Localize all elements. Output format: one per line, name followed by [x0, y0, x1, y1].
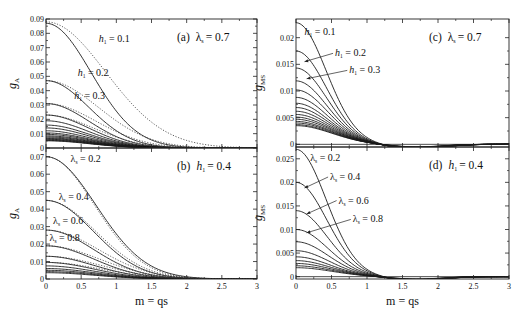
- y-tick-label: 0.02: [280, 34, 294, 43]
- y-tick-label: 0.01: [280, 226, 294, 235]
- x-tick-label: 0: [44, 282, 48, 291]
- x-tick-label: 2.5: [217, 282, 227, 291]
- series-annotation: h1 = 0.1: [99, 33, 130, 45]
- panel-b: 00.511.522.5300.010.020.030.040.050.060.…: [5, 148, 259, 308]
- arrowhead-icon: [307, 230, 311, 233]
- panel-d: 00.511.522.5300.0050.010.0150.020.025gMS…: [251, 147, 511, 308]
- x-tick-label: 2: [436, 282, 440, 291]
- annotation-arrow: [305, 53, 334, 61]
- y-tick-label: 0: [40, 144, 44, 153]
- series-annotation: λs = 0.2: [71, 153, 101, 165]
- y-axis-title: gA: [5, 78, 21, 89]
- y-tick-label: 0.02: [280, 178, 294, 187]
- panel-title: (b)h1= 0.4: [177, 160, 231, 173]
- series-annotation: λs = 0.4: [330, 171, 360, 183]
- series-line-dotted: [46, 115, 257, 148]
- series-annotation: h1 = 0.2: [335, 47, 366, 59]
- arrowhead-icon: [305, 59, 309, 62]
- series-annotation: h1 = 0.1: [305, 26, 336, 38]
- x-tick-label: 3: [507, 282, 511, 291]
- series-annotation: λs = 0.6: [53, 215, 83, 227]
- y-tick-label: 0.06: [30, 58, 44, 67]
- y-tick-label: 0.02: [30, 240, 44, 249]
- y-tick-label: 0: [290, 140, 294, 149]
- panel-title: (d)h1= 0.4: [429, 159, 483, 172]
- x-tick-label: 2: [185, 282, 189, 291]
- annotation-arrow: [305, 177, 329, 188]
- y-axis-title: gMS: [251, 205, 267, 221]
- y-tick-label: 0: [40, 275, 44, 284]
- series-line: [46, 115, 257, 148]
- series-annotation: h1 = 0.3: [74, 90, 105, 102]
- series-line: [296, 68, 509, 149]
- x-tick-label: 0.5: [76, 282, 86, 291]
- series-line: [46, 121, 257, 148]
- x-tick-label: 0.5: [327, 282, 337, 291]
- y-tick-label: 0.02: [30, 115, 44, 124]
- y-tick-label: 0.005: [276, 114, 294, 123]
- x-tick-label: 1: [114, 282, 118, 291]
- y-tick-label: 0.03: [30, 101, 44, 110]
- series-annotation: λs = 0.4: [59, 191, 89, 203]
- y-axis-title: gA: [5, 208, 21, 219]
- x-tick-label: 0: [294, 282, 298, 291]
- y-tick-label: 0.04: [30, 87, 44, 96]
- arrowhead-icon: [307, 76, 311, 79]
- y-tick-label: 0.09: [30, 15, 44, 24]
- figure: 00.010.020.030.040.050.060.070.080.09gA(…: [0, 0, 522, 314]
- x-tick-label: 3: [255, 282, 259, 291]
- series-annotation: h1 = 0.3: [349, 64, 380, 76]
- panel-a: 00.010.020.030.040.050.060.070.080.09gA(…: [5, 15, 257, 153]
- panel-title: (c)λs= 0.7: [429, 31, 482, 44]
- y-tick-label: 0: [290, 273, 294, 282]
- y-tick-label: 0.04: [30, 205, 44, 214]
- y-tick-label: 0.08: [30, 29, 44, 38]
- y-tick-label: 0.05: [30, 188, 44, 197]
- series-annotation: λs = 0.8: [353, 213, 383, 225]
- x-tick-label: 1.5: [398, 282, 408, 291]
- series-line: [296, 97, 509, 148]
- y-tick-label: 0.03: [30, 223, 44, 232]
- y-tick-label: 0.025: [276, 155, 294, 164]
- series-annotation: λs = 0.6: [339, 195, 369, 207]
- y-tick-label: 0.015: [276, 60, 294, 69]
- x-tick-label: 1.5: [147, 282, 157, 291]
- y-tick-label: 0.01: [30, 130, 44, 139]
- y-tick-label: 0.01: [30, 258, 44, 267]
- y-tick-label: 0.015: [276, 202, 294, 211]
- y-tick-label: 0.06: [30, 170, 44, 179]
- series-annotation: λs = 0.8: [50, 232, 80, 244]
- y-tick-label: 0.01: [280, 87, 294, 96]
- y-axis-title: gMS: [251, 75, 267, 91]
- y-tick-label: 0.07: [30, 153, 44, 162]
- series-annotation: h1 = 0.2: [78, 67, 109, 79]
- series-line: [296, 182, 509, 280]
- x-axis-title: m = qs: [386, 294, 419, 308]
- annotation-arrow: [307, 201, 337, 214]
- x-tick-label: 1: [365, 282, 369, 291]
- annotation-arrow: [307, 219, 351, 232]
- panel-c: 00.0050.010.0150.02gMS(c)λs= 0.7h1 = 0.1…: [251, 19, 509, 149]
- series-line: [296, 108, 509, 149]
- y-tick-label: 0.07: [30, 44, 44, 53]
- y-tick-label: 0.05: [30, 72, 44, 81]
- y-tick-label: 0.005: [276, 249, 294, 258]
- series-annotation: λs = 0.2: [310, 152, 340, 164]
- x-axis-title: m = qs: [135, 294, 168, 308]
- x-tick-label: 2.5: [469, 282, 479, 291]
- panel-title: (a)λs= 0.7: [177, 31, 230, 44]
